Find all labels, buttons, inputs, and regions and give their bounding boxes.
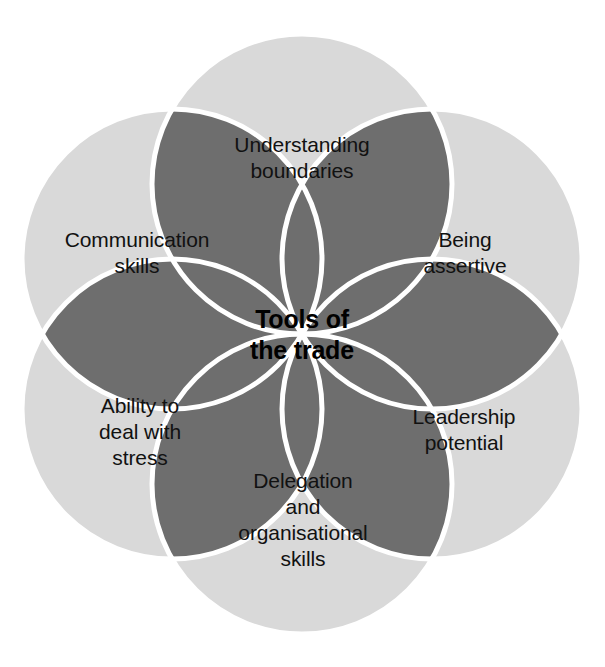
venn-circles-graphic	[0, 0, 605, 667]
venn-flower-diagram: Understanding boundaries Being assertive…	[0, 0, 605, 667]
